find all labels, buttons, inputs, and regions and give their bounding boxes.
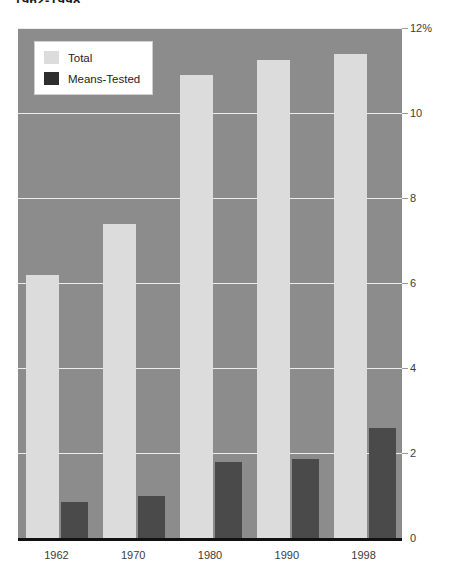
legend-swatch-means-tested-icon xyxy=(44,72,59,85)
bar-group xyxy=(180,28,242,538)
y-axis-tick-label: 6 xyxy=(410,277,416,289)
legend-item-means-tested: Means-Tested xyxy=(44,70,140,87)
y-axis-tick-label: 10 xyxy=(410,107,422,119)
bar-total xyxy=(334,54,367,539)
x-axis-tick-label: 1970 xyxy=(121,549,145,561)
bar-means-tested xyxy=(215,462,242,539)
y-axis-tick-mark xyxy=(402,368,408,369)
bar-group xyxy=(257,28,319,538)
y-axis-tick-mark xyxy=(402,28,408,29)
y-axis-tick-mark xyxy=(402,283,408,284)
x-axis-tick-label: 1962 xyxy=(44,549,68,561)
legend-swatch-total-icon xyxy=(44,51,59,64)
bar-total xyxy=(103,224,136,539)
bar-group xyxy=(26,28,88,538)
legend-label-total: Total xyxy=(68,52,92,64)
y-axis-tick-mark xyxy=(402,198,408,199)
chart-title: 1962-1998 xyxy=(14,0,81,3)
chart-figure: 1962-1998 024681012% 1962197019801990199… xyxy=(0,0,454,586)
bar-total xyxy=(257,60,290,538)
y-axis-tick-label: 12% xyxy=(410,22,432,34)
legend-item-total: Total xyxy=(44,49,140,66)
legend-label-means-tested: Means-Tested xyxy=(68,73,140,85)
y-axis-tick-label: 4 xyxy=(410,362,416,374)
x-axis-tick-label: 1998 xyxy=(351,549,375,561)
bar-means-tested xyxy=(61,502,88,538)
bar-total xyxy=(26,275,59,539)
y-axis-tick-label: 8 xyxy=(410,192,416,204)
bar-total xyxy=(180,75,213,538)
x-axis-tick-label: 1990 xyxy=(275,549,299,561)
bar-group xyxy=(103,28,165,538)
bar-means-tested xyxy=(138,496,165,539)
plot-area xyxy=(18,28,402,538)
y-axis-tick-label: 0 xyxy=(410,532,416,544)
x-axis-line xyxy=(18,538,402,541)
bar-group xyxy=(334,28,396,538)
chart-legend: Total Means-Tested xyxy=(34,41,153,95)
y-axis-tick-mark xyxy=(402,113,408,114)
x-axis-tick-label: 1980 xyxy=(198,549,222,561)
bar-means-tested xyxy=(292,459,319,538)
y-axis-tick-label: 2 xyxy=(410,447,416,459)
bar-means-tested xyxy=(369,428,396,539)
y-axis-tick-mark xyxy=(402,453,408,454)
